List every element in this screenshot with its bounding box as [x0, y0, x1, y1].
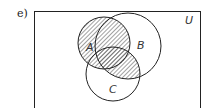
venn-diagram: A B C U — [0, 0, 206, 108]
set-label-b: B — [137, 39, 145, 52]
universe-label: U — [185, 14, 193, 27]
set-label-c: C — [109, 83, 117, 96]
set-label-a: A — [85, 41, 94, 54]
